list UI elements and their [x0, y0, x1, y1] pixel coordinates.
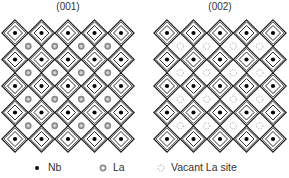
nb-atom [13, 31, 17, 35]
nbo6-octahedron [233, 99, 259, 125]
nbo6-octahedron [260, 73, 286, 99]
nb-atom [39, 110, 43, 114]
nb-atom [66, 110, 70, 114]
la-atom [52, 44, 57, 49]
nb-atom [165, 137, 169, 141]
vacant-site-icon [156, 161, 166, 173]
nb-atom [218, 84, 222, 88]
nb-atom [218, 137, 222, 141]
nbo6-octahedron [233, 46, 259, 72]
nb-atom [39, 31, 43, 35]
nbo6-octahedron [28, 46, 54, 72]
nb-atom [92, 31, 96, 35]
nb-atom [165, 110, 169, 114]
nb-atom [119, 137, 123, 141]
nbo6-octahedron [260, 99, 286, 125]
nb-atom [191, 84, 195, 88]
nbo6-octahedron [55, 46, 81, 72]
nbo6-octahedron [180, 126, 206, 152]
la-atom [105, 97, 110, 102]
nbo6-octahedron [207, 73, 233, 99]
vacant-la-site [257, 123, 263, 129]
nb-atom [244, 84, 248, 88]
la-atom [105, 44, 110, 49]
nbo6-octahedron [260, 20, 286, 46]
vacant-la-site [177, 70, 183, 76]
nbo6-octahedron [55, 99, 81, 125]
nb-atom [191, 57, 195, 61]
nbo6-octahedron [28, 20, 54, 46]
nb-atom [39, 137, 43, 141]
nbo6-octahedron [81, 46, 107, 72]
panel-001-lattice [2, 20, 134, 152]
nb-atom [39, 57, 43, 61]
nbo6-octahedron [55, 20, 81, 46]
la-atom [79, 123, 84, 128]
nbo6-octahedron [233, 126, 259, 152]
nbo6-octahedron [207, 20, 233, 46]
nb-atom [92, 57, 96, 61]
nb-atom [218, 31, 222, 35]
vacant-la-site [204, 123, 210, 129]
nbo6-octahedron [81, 73, 107, 99]
panel-002-lattice [154, 20, 286, 152]
nb-atom [92, 84, 96, 88]
nbo6-octahedron [2, 73, 28, 99]
nb-atom [66, 84, 70, 88]
nb-atom [13, 84, 17, 88]
nbo6-octahedron [154, 46, 180, 72]
la-atom [105, 70, 110, 75]
nb-atom [218, 57, 222, 61]
nbo6-octahedron [233, 73, 259, 99]
vacant-la-site [257, 43, 263, 49]
vacant-la-site [257, 96, 263, 102]
la-atom [79, 44, 84, 49]
nbo6-octahedron [28, 99, 54, 125]
nb-atom [119, 84, 123, 88]
nb-atom [66, 137, 70, 141]
nbo6-octahedron [55, 126, 81, 152]
vacant-la-site [177, 123, 183, 129]
nb-atom [13, 137, 17, 141]
lattice-diagram [0, 0, 289, 160]
vacant-la-site [230, 96, 236, 102]
nb-atom [271, 84, 275, 88]
vacant-la-site [204, 43, 210, 49]
nb-atom [13, 57, 17, 61]
nbo6-octahedron [2, 126, 28, 152]
nbo6-octahedron [207, 126, 233, 152]
nb-atom [66, 57, 70, 61]
nb-atom [165, 31, 169, 35]
nb-atom [119, 110, 123, 114]
la-atom [26, 44, 31, 49]
nbo6-octahedron [108, 46, 134, 72]
la-atom [26, 70, 31, 75]
nb-atom [119, 57, 123, 61]
nbo6-octahedron [81, 126, 107, 152]
la-atom [79, 97, 84, 102]
vacant-la-site [177, 43, 183, 49]
la-atom [105, 123, 110, 128]
la-atom-icon [98, 161, 108, 173]
legend-item-nb: Nb [33, 161, 61, 173]
vacant-la-site [230, 123, 236, 129]
nb-atom-icon [33, 161, 43, 173]
nbo6-octahedron [180, 73, 206, 99]
vacant-la-site [204, 70, 210, 76]
nbo6-octahedron [154, 73, 180, 99]
nb-atom [271, 137, 275, 141]
nb-atom [191, 137, 195, 141]
nb-atom [13, 110, 17, 114]
la-atom [52, 70, 57, 75]
nbo6-octahedron [154, 20, 180, 46]
nbo6-octahedron [81, 99, 107, 125]
nb-atom [39, 84, 43, 88]
nb-atom [191, 110, 195, 114]
legend-label-nb: Nb [48, 161, 61, 173]
nbo6-octahedron [2, 99, 28, 125]
nbo6-octahedron [180, 46, 206, 72]
vacant-la-site [204, 96, 210, 102]
la-atom [79, 70, 84, 75]
nbo6-octahedron [108, 73, 134, 99]
la-atom [52, 123, 57, 128]
